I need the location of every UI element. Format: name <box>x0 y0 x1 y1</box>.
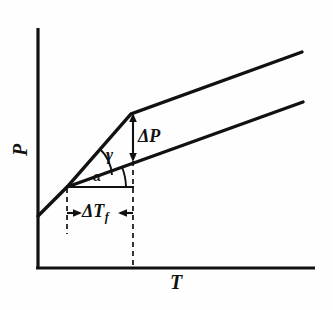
thermal-analysis-diagram: P T ΔP ΔTf γ α <box>0 0 333 310</box>
delta-p-label: ΔP <box>138 127 160 145</box>
gamma-angle-label: γ <box>106 146 113 163</box>
delta-tf-subscript: f <box>105 210 109 224</box>
diagram-canvas <box>0 0 333 310</box>
y-axis-label: P <box>10 144 30 156</box>
curves-group <box>38 52 303 216</box>
dashed-reference-lines <box>67 116 133 268</box>
delta-tf-arrowhead-left <box>73 209 82 217</box>
alpha-angle-label: α <box>93 169 101 184</box>
x-axis-label: T <box>170 272 182 292</box>
delta-p-measure <box>129 113 137 162</box>
upper-branch-curve <box>38 52 302 216</box>
delta-tf-base: ΔT <box>82 201 104 221</box>
alpha-arc <box>122 167 126 187</box>
delta-tf-label: ΔTf <box>82 202 109 223</box>
delta-tf-arrowhead-right <box>118 209 127 217</box>
